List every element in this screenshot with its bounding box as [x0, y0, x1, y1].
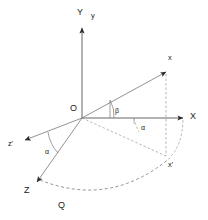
arc-X-to-xprime	[170, 120, 183, 157]
diagram-canvas: Y y X x x' z' Z Q O β α α	[0, 0, 208, 220]
axis-label-Y: Y	[77, 8, 83, 17]
angle-label-alpha-left: α	[45, 148, 49, 155]
arc-alpha-left	[48, 132, 58, 153]
arc-alpha-right	[134, 118, 139, 132]
axis-line-x-rotated	[82, 72, 166, 118]
axis-label-Z: Z	[24, 186, 30, 195]
origin-label-O: O	[70, 104, 77, 113]
axis-line-z-prime	[25, 118, 82, 140]
angle-label-alpha-right: α	[141, 124, 145, 131]
axis-label-X: X	[190, 112, 196, 121]
axis-label-x-rotated: x	[168, 54, 172, 62]
point-label-Q: Q	[58, 201, 65, 210]
projection-origin-to-xprime	[82, 118, 166, 156]
axis-label-x-prime: x'	[168, 161, 173, 169]
arc-big-ground-plane	[40, 158, 170, 190]
angle-label-beta: β	[115, 107, 119, 114]
axis-line-Z	[37, 118, 82, 182]
axis-label-y-prime: y	[91, 12, 95, 20]
coordinate-axes-svg	[0, 0, 208, 220]
axis-label-z-prime: z'	[8, 140, 13, 148]
